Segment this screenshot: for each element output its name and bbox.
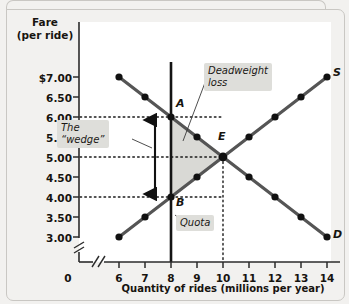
callout-dwl-line1: Deadweight: [208, 65, 268, 77]
demand-point-14: [323, 233, 330, 240]
supply-point-6: [115, 233, 122, 240]
point-label-e: E: [218, 130, 226, 143]
x-tick-marks: [119, 262, 327, 268]
demand-point-12: [271, 193, 278, 200]
callout-quota: Quota: [176, 215, 214, 231]
point-label-b: B: [176, 196, 184, 209]
supply-point-7: [141, 213, 148, 220]
callout-dwl-line2: loss: [208, 77, 268, 89]
demand-point-11: [245, 173, 252, 180]
point-label-a: A: [176, 97, 185, 110]
demand-point-13: [297, 213, 304, 220]
callout-wedge: The “wedge”: [57, 120, 109, 148]
y-axis-break-icon: [74, 242, 84, 253]
x-axis-break-icon: [92, 256, 105, 267]
demand-point-9: [193, 133, 200, 140]
callout-deadweight-loss: Deadweight loss: [204, 63, 272, 91]
supply-point-14: [323, 73, 330, 80]
demand-curve-label: D: [333, 228, 342, 241]
figure-container: Fare (per ride) Quantity of rides (milli…: [0, 0, 349, 304]
y-tick-marks: [73, 77, 79, 237]
supply-curve-label: S: [333, 66, 341, 79]
supply-point-11: [245, 133, 252, 140]
supply-point-9: [193, 173, 200, 180]
demand-point-6: [115, 73, 122, 80]
demand-point-7: [141, 93, 148, 100]
wedge-leader-line: [132, 139, 152, 148]
supply-point-12: [271, 113, 278, 120]
supply-point-13: [297, 93, 304, 100]
deadweight-leader-line: [183, 80, 206, 141]
chart-svg: [0, 0, 349, 304]
equilibrium-point-e: [219, 153, 228, 162]
callout-wedge-line1: The: [61, 122, 105, 134]
callout-wedge-line2: “wedge”: [61, 134, 105, 146]
